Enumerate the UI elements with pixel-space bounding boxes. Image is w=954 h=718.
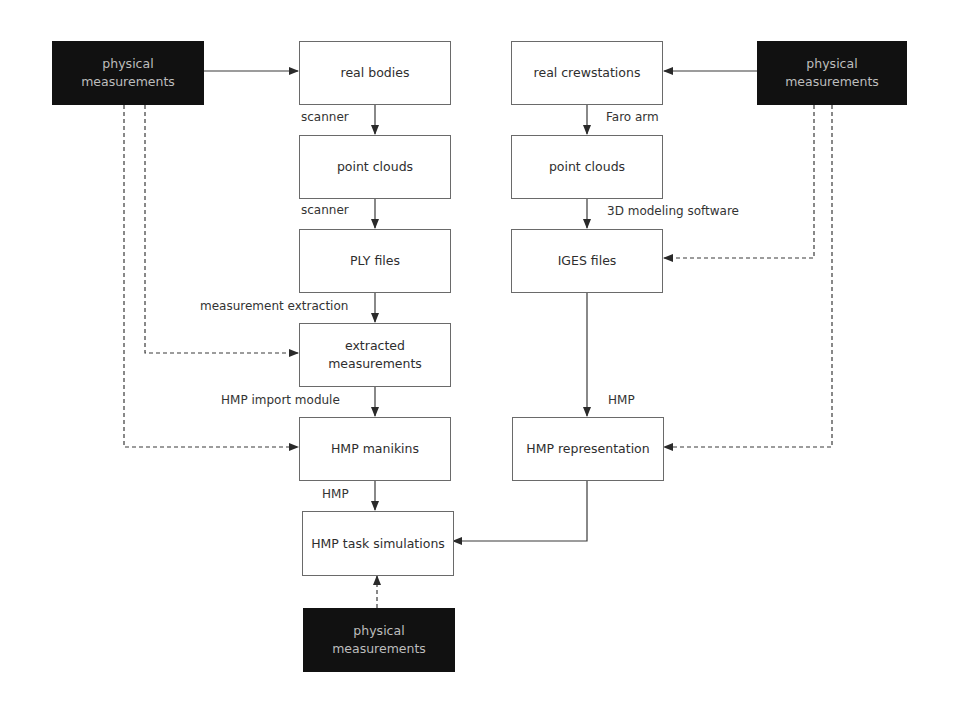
node-physical-measurements-bottom: physical measurements: [303, 608, 455, 672]
node-label: physical measurements: [81, 55, 175, 91]
node-label: PLY files: [350, 252, 400, 270]
node-real-crewstations: real crewstations: [511, 41, 663, 105]
connectors: [0, 0, 954, 718]
node-label: HMP manikins: [331, 440, 419, 458]
arrow-hmp-rep-to-task-sim: [453, 481, 587, 541]
node-iges-files: IGES files: [511, 229, 663, 293]
node-label: extracted measurements: [328, 337, 422, 373]
node-label: physical measurements: [785, 55, 879, 91]
node-real-bodies: real bodies: [299, 41, 451, 105]
node-label: HMP task simulations: [311, 535, 445, 553]
edge-label-hmp-left: HMP: [322, 487, 349, 501]
node-label: point clouds: [337, 158, 413, 176]
node-physical-measurements-left: physical measurements: [52, 41, 204, 105]
node-label: HMP representation: [526, 440, 649, 458]
edge-label-faro-arm: Faro arm: [606, 110, 659, 124]
node-extracted-measurements: extracted measurements: [299, 323, 451, 387]
edge-label-scanner-2: scanner: [301, 203, 349, 217]
node-label: physical measurements: [332, 622, 426, 658]
node-hmp-manikins: HMP manikins: [299, 417, 451, 481]
edge-label-hmp-import-module: HMP import module: [221, 393, 340, 407]
node-ply-files: PLY files: [299, 229, 451, 293]
dashed-pm-to-hmp-rep: [664, 105, 832, 447]
workflow-diagram: physical measurements real bodies point …: [0, 0, 954, 718]
node-label: real crewstations: [534, 64, 641, 82]
node-hmp-task-simulations: HMP task simulations: [302, 511, 454, 576]
edge-label-measurement-extraction: measurement extraction: [200, 299, 348, 313]
node-physical-measurements-right: physical measurements: [757, 41, 907, 105]
node-hmp-representation: HMP representation: [512, 417, 664, 481]
node-label: point clouds: [549, 158, 625, 176]
node-label: IGES files: [558, 252, 617, 270]
edge-label-hmp-right: HMP: [608, 393, 635, 407]
dashed-pm-to-iges: [664, 105, 814, 258]
edge-label-scanner-1: scanner: [301, 110, 349, 124]
node-point-clouds-left: point clouds: [299, 135, 451, 199]
dashed-pm-to-extracted: [145, 105, 298, 353]
edge-label-3d-modeling-software: 3D modeling software: [607, 204, 739, 218]
node-label: real bodies: [341, 64, 410, 82]
node-point-clouds-right: point clouds: [511, 135, 663, 199]
